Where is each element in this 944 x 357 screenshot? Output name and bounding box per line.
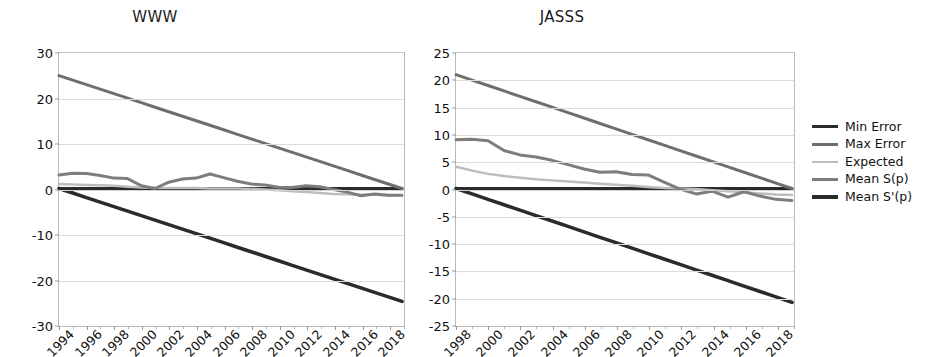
y-tick-label: 30 bbox=[36, 46, 53, 61]
x-tick-minor bbox=[376, 326, 377, 329]
y-tick-mark bbox=[55, 144, 59, 145]
x-tick-mark bbox=[746, 326, 747, 330]
legend-item: Min Error bbox=[812, 118, 942, 136]
x-tick-mark bbox=[778, 326, 779, 330]
series-line-max-error bbox=[456, 75, 792, 189]
x-tick-mark bbox=[87, 326, 88, 330]
y-tick-mark bbox=[452, 107, 456, 108]
y-tick-label: -20 bbox=[429, 291, 450, 306]
series-line-mean-s-p bbox=[456, 189, 792, 303]
gridline-y bbox=[456, 108, 794, 109]
y-tick-label: -25 bbox=[429, 319, 450, 334]
x-tick-label: 2000 bbox=[127, 327, 160, 357]
y-tick-label: 0 bbox=[442, 182, 450, 197]
x-tick-mark bbox=[585, 326, 586, 330]
gridline-y bbox=[456, 135, 794, 136]
x-tick-label: 2016 bbox=[731, 327, 764, 357]
x-tick-mark bbox=[617, 326, 618, 330]
x-tick-mark bbox=[456, 326, 457, 330]
y-tick-label: -10 bbox=[32, 228, 53, 243]
x-tick-label: 2008 bbox=[237, 327, 270, 357]
x-tick-minor bbox=[472, 326, 473, 329]
x-tick-minor bbox=[100, 326, 101, 329]
x-tick-mark bbox=[649, 326, 650, 330]
x-tick-label: 2014 bbox=[320, 327, 353, 357]
legend-label: Mean S(p) bbox=[845, 173, 909, 186]
x-tick-minor bbox=[601, 326, 602, 329]
x-tick-minor bbox=[128, 326, 129, 329]
y-tick-mark bbox=[55, 235, 59, 236]
x-tick-minor bbox=[762, 326, 763, 329]
x-tick-mark bbox=[252, 326, 253, 330]
y-tick-mark bbox=[452, 80, 456, 81]
gridline-y bbox=[59, 144, 404, 145]
legend-swatch-icon bbox=[812, 195, 838, 199]
x-tick-minor bbox=[404, 326, 405, 329]
gridline-y bbox=[456, 217, 794, 218]
y-tick-label: -15 bbox=[429, 264, 450, 279]
y-tick-label: 0 bbox=[45, 182, 53, 197]
x-tick-minor bbox=[633, 326, 634, 329]
y-tick-mark bbox=[55, 53, 59, 54]
legend-item: Mean S(p) bbox=[812, 171, 942, 189]
legend-label: Expected bbox=[845, 156, 903, 169]
x-tick-label: 2016 bbox=[347, 327, 380, 357]
gridline-y bbox=[456, 190, 794, 191]
legend-item: Max Error bbox=[812, 136, 942, 154]
legend-swatch-icon bbox=[812, 161, 838, 164]
x-tick-mark bbox=[553, 326, 554, 330]
legend-label: Max Error bbox=[845, 138, 905, 151]
x-tick-minor bbox=[211, 326, 212, 329]
series-line-max-error bbox=[59, 76, 402, 189]
x-tick-label: 1996 bbox=[71, 327, 104, 357]
legend-label: Mean S'(p) bbox=[845, 191, 912, 204]
x-tick-mark bbox=[307, 326, 308, 330]
gridline-y bbox=[456, 299, 794, 300]
series-line-mean-s-p bbox=[59, 189, 402, 302]
x-tick-label: 2014 bbox=[698, 327, 731, 357]
x-tick-minor bbox=[238, 326, 239, 329]
y-tick-label: 5 bbox=[442, 155, 450, 170]
x-tick-label: 2004 bbox=[537, 327, 570, 357]
y-tick-label: 15 bbox=[433, 100, 450, 115]
y-tick-label: 20 bbox=[36, 91, 53, 106]
x-tick-label: 2018 bbox=[375, 327, 408, 357]
y-tick-mark bbox=[55, 98, 59, 99]
y-tick-label: 10 bbox=[36, 137, 53, 152]
y-tick-label: 25 bbox=[433, 46, 450, 61]
x-tick-minor bbox=[569, 326, 570, 329]
gridline-y bbox=[456, 271, 794, 272]
chart-title-jasss: JASSS bbox=[362, 8, 762, 26]
y-tick-label: -5 bbox=[437, 209, 450, 224]
x-tick-mark bbox=[280, 326, 281, 330]
x-tick-minor bbox=[73, 326, 74, 329]
x-tick-label: 2012 bbox=[666, 327, 699, 357]
chart-legend: Min ErrorMax ErrorExpectedMean S(p)Mean … bbox=[812, 118, 942, 206]
x-tick-label: 2008 bbox=[602, 327, 635, 357]
y-tick-label: 10 bbox=[433, 127, 450, 142]
x-tick-mark bbox=[520, 326, 521, 330]
x-tick-mark bbox=[197, 326, 198, 330]
x-tick-label: 2004 bbox=[182, 327, 215, 357]
y-tick-mark bbox=[452, 271, 456, 272]
x-tick-minor bbox=[183, 326, 184, 329]
y-tick-mark bbox=[452, 189, 456, 190]
x-tick-minor bbox=[697, 326, 698, 329]
x-tick-minor bbox=[321, 326, 322, 329]
gridline-y bbox=[59, 190, 404, 191]
chart-title-www: WWW bbox=[0, 8, 365, 26]
x-tick-label: 2002 bbox=[505, 327, 538, 357]
x-tick-minor bbox=[794, 326, 795, 329]
chart-panel-jasss: JASSS 2520151050-5-10-15-20-251998200020… bbox=[410, 0, 810, 357]
series-line-mean-s-p bbox=[456, 139, 792, 200]
x-tick-minor bbox=[665, 326, 666, 329]
x-tick-mark bbox=[59, 326, 60, 330]
gridline-y bbox=[456, 244, 794, 245]
legend-swatch-icon bbox=[812, 143, 838, 146]
x-tick-label: 2006 bbox=[209, 327, 242, 357]
x-tick-mark bbox=[169, 326, 170, 330]
x-tick-label: 2018 bbox=[763, 327, 796, 357]
x-tick-mark bbox=[225, 326, 226, 330]
legend-item: Mean S'(p) bbox=[812, 188, 942, 206]
y-tick-label: -30 bbox=[32, 319, 53, 334]
